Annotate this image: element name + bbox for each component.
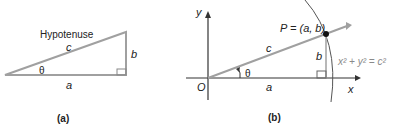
angle-theta-a: θ — [39, 65, 45, 76]
x-axis-arrow-icon — [355, 75, 361, 81]
y-axis-arrow-icon — [205, 11, 211, 18]
circle-equation: x² + y² = c² — [337, 56, 386, 67]
caption-a: (a) — [57, 113, 69, 124]
figure-b: y x O P = (a, b) c b a θ x² + y² = c² (b… — [186, 0, 386, 123]
side-b-label-a: b — [131, 48, 137, 60]
point-p-label: P = (a, b) — [280, 22, 325, 34]
side-a-label-b: a — [266, 81, 272, 93]
side-b-label-b: b — [316, 50, 322, 62]
right-angle-marker-b — [317, 71, 326, 78]
figure-a: Hypotenuse c b a θ (a) — [5, 29, 137, 124]
y-axis-label: y — [195, 6, 203, 18]
origin-label: O — [197, 81, 206, 93]
hypotenuse-label: Hypotenuse — [40, 29, 94, 40]
side-a-label-a: a — [66, 79, 72, 91]
side-c-label-a: c — [66, 41, 72, 53]
ray-arrow-icon — [346, 22, 352, 30]
x-axis-label: x — [347, 83, 354, 95]
angle-theta-b: θ — [245, 68, 251, 79]
caption-b: (b) — [268, 112, 281, 123]
diagram-canvas: Hypotenuse c b a θ (a) y x O P = (a, b) … — [0, 0, 395, 135]
side-c-label-b: c — [266, 42, 272, 54]
